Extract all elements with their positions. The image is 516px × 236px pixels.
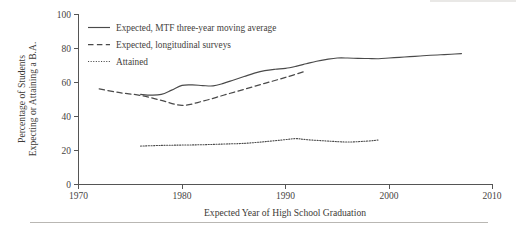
x-tick-label-1980: 1980 bbox=[173, 191, 192, 201]
legend-label-expected-mtf: Expected, MTF three-year moving average bbox=[116, 23, 276, 33]
y-tick-label-0: 0 bbox=[66, 180, 71, 190]
x-tick-label-1970: 1970 bbox=[69, 191, 88, 201]
y-tick-label-20: 20 bbox=[62, 146, 72, 156]
legend-label-attained: Attained bbox=[116, 57, 148, 67]
series-line-expected-longitudinal bbox=[99, 71, 306, 105]
y-tick-label-80: 80 bbox=[62, 44, 72, 54]
x-tick-label-1990: 1990 bbox=[276, 191, 295, 201]
figure-container: 100 80 60 40 20 0 1970 1980 1990 2000 20… bbox=[0, 0, 516, 236]
y-axis-title: Percentage of Students Expecting or Atta… bbox=[16, 42, 38, 157]
x-axis-tick-labels: 1970 1980 1990 2000 2010 bbox=[69, 191, 502, 201]
y-axis-tick-labels: 100 80 60 40 20 0 bbox=[57, 10, 72, 190]
x-tick-label-2000: 2000 bbox=[380, 191, 399, 201]
x-tick-label-2010: 2010 bbox=[483, 191, 502, 201]
legend-label-expected-longitudinal: Expected, longitudinal surveys bbox=[116, 40, 231, 50]
x-axis-ticks bbox=[79, 185, 493, 190]
chart-legend: Expected, MTF three-year moving average … bbox=[88, 23, 276, 67]
y-tick-label-100: 100 bbox=[57, 10, 72, 20]
line-chart: 100 80 60 40 20 0 1970 1980 1990 2000 20… bbox=[0, 0, 516, 236]
scan-artifact bbox=[430, 0, 516, 2]
y-tick-label-40: 40 bbox=[62, 112, 72, 122]
series-line-attained bbox=[141, 139, 379, 146]
y-axis-title-line2: Expecting or Attaining a B.A. bbox=[27, 42, 38, 157]
y-tick-label-60: 60 bbox=[62, 78, 72, 88]
series-line-expected-mtf bbox=[141, 54, 462, 95]
y-axis-title-line1: Percentage of Students bbox=[16, 55, 27, 143]
y-axis-ticks bbox=[74, 15, 79, 185]
x-axis-title: Expected Year of High School Graduation bbox=[204, 207, 366, 218]
